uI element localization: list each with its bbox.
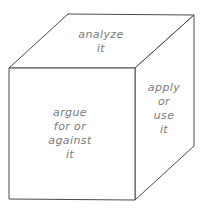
right-face-line-2: or [158,95,171,108]
top-face-line-2: it [97,42,105,55]
front-face-line-3: against [48,134,92,147]
front-face-line-1: argue [53,106,87,119]
top-face-line-1: analyze [78,28,123,41]
front-face-line-4: it [66,148,74,161]
cube-diagram: analyze it argue for or against it apply… [0,0,205,213]
front-face-line-2: for or [54,120,87,133]
right-face-line-1: apply [148,81,180,94]
right-face-line-4: it [160,123,168,136]
right-face-line-3: use [154,109,175,122]
